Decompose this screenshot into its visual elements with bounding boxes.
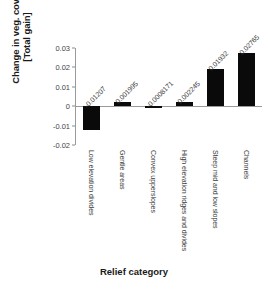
bar-value-label: -0.0008171 bbox=[145, 80, 174, 109]
x-category-label: Steep mid and low slopes bbox=[212, 150, 219, 229]
y-tick-label: 0.02 bbox=[55, 63, 70, 72]
y-tick-label: -0.02 bbox=[53, 141, 70, 150]
y-tick-label: 0.01 bbox=[55, 82, 70, 91]
x-axis-title: Relief category bbox=[0, 266, 268, 277]
bar[interactable] bbox=[83, 106, 100, 129]
y-axis-tick-labels: 0.030.020.010-0.01-0.02 bbox=[36, 0, 70, 292]
x-category-label: High elevation ridges and divides bbox=[181, 150, 188, 251]
x-category-label: Channels bbox=[243, 150, 250, 179]
bar-slot: 0.002245 bbox=[176, 48, 193, 145]
bar-chart-figure: Change in veg. cover [Total gain] 0.030.… bbox=[0, 0, 268, 292]
x-axis-category-labels: Low elevation dividesGentle areasConvex … bbox=[76, 150, 262, 260]
bar-slot: 0.02765 bbox=[238, 48, 255, 145]
bar-slot: -0.0008171 bbox=[145, 48, 162, 145]
x-category-label: Convex upperslopes bbox=[150, 150, 157, 213]
bar[interactable] bbox=[238, 53, 255, 107]
y-tick-label: 0 bbox=[66, 102, 70, 111]
y-axis-title: Change in veg. cover [Total gain] bbox=[6, 0, 36, 102]
bar-slot: 0.01932 bbox=[207, 48, 224, 145]
bar-slot: 0.001995 bbox=[114, 48, 131, 145]
y-tick-label: -0.01 bbox=[53, 121, 70, 130]
x-category-label: Gentle areas bbox=[119, 150, 126, 189]
zero-baseline bbox=[76, 106, 262, 107]
bar-slot: -0.01207 bbox=[83, 48, 100, 145]
bar[interactable] bbox=[207, 69, 224, 106]
x-category-label: Low elevation divides bbox=[88, 150, 95, 216]
plot-area: -0.012070.001995-0.00081710.0022450.0193… bbox=[76, 48, 262, 145]
y-tick-label: 0.03 bbox=[55, 44, 70, 53]
